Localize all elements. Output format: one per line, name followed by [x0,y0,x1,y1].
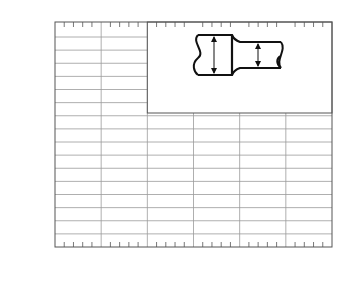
stress-concentration-chart [0,0,355,288]
inset-diagram [147,22,332,113]
